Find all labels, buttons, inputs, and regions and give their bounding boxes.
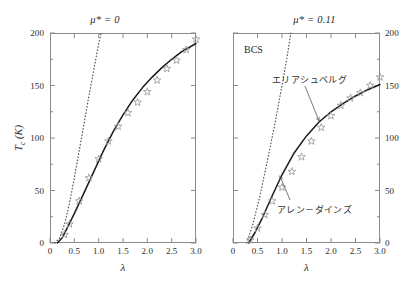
series-bcs-curve — [247, 33, 291, 243]
series-eliashberg-markers — [61, 35, 200, 238]
eliashberg-leader-line — [305, 86, 319, 121]
panel-left-ticks — [50, 33, 196, 243]
panel-left: μ* = 0 Tc (K) 0 50 100 150 200 0 0.5 1.0… — [0, 0, 210, 288]
figure-root: μ* = 0 Tc (K) 0 50 100 150 200 0 0.5 1.0… — [0, 0, 419, 288]
series-allen-dynes-curve — [249, 85, 380, 244]
panel-right: μ* = 0.11 0 50 100 150 200 0 0.5 1.0 1.5… — [210, 0, 419, 288]
series-allen-dynes-curve — [57, 44, 196, 244]
panel-left-plot-area — [0, 0, 210, 288]
panel-right-plot-area — [210, 0, 419, 288]
panel-right-ticks — [233, 33, 380, 243]
series-bcs-curve — [55, 33, 101, 243]
allen-dynes-leader-line — [280, 176, 290, 200]
series-eliashberg-markers — [246, 73, 383, 243]
